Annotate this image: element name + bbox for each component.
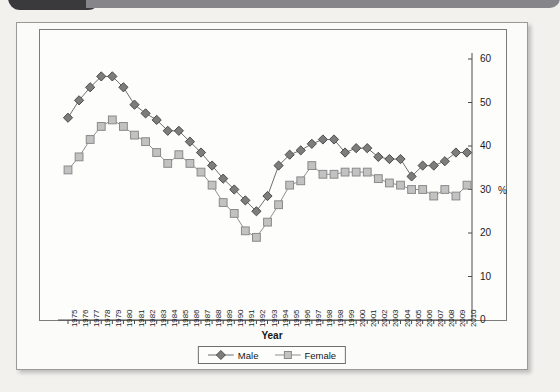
- x-tick-label: 1976: [82, 310, 90, 327]
- x-tick-label: 1998: [326, 310, 334, 327]
- x-tick-label: 1990: [237, 310, 245, 327]
- x-tick-label: 1975: [71, 310, 79, 327]
- x-tick-label: 2006: [426, 310, 434, 327]
- legend-diamond-icon: [208, 349, 234, 361]
- x-tick-label: 1995: [293, 310, 301, 327]
- x-tick-label: 1982: [149, 310, 157, 327]
- x-tick-label: 2001: [370, 310, 378, 327]
- x-tick-label: 1996: [304, 310, 312, 327]
- legend-item-male[interactable]: Male: [208, 349, 259, 361]
- x-tick-label: 1999: [348, 310, 356, 327]
- window-title-bar: [86, 0, 560, 8]
- chart-legend: Male Female: [198, 346, 346, 364]
- x-tick-label: 1977: [93, 310, 101, 327]
- figure-card: 0102030%405060 1975197619771978197919801…: [16, 22, 528, 370]
- x-tick-label: 1993: [271, 310, 279, 327]
- x-tick-label: 1994: [282, 310, 290, 327]
- x-tick-label: 1986: [193, 310, 201, 327]
- x-tick-label: 2000: [359, 310, 367, 327]
- x-tick-label: 2008: [448, 310, 456, 327]
- x-tick-label: 2002: [381, 310, 389, 327]
- legend-square-icon: [274, 349, 300, 361]
- x-tick-label: 1983: [160, 310, 168, 327]
- x-tick-label: 1992: [259, 310, 267, 327]
- x-tick-label: 1998: [337, 310, 345, 327]
- x-tick-label: 1984: [171, 310, 179, 327]
- x-axis-title: Year: [17, 330, 527, 341]
- legend-label-male: Male: [238, 350, 259, 361]
- x-tick-label: 1989: [226, 310, 234, 327]
- legend-label-female: Female: [304, 350, 336, 361]
- x-tick-label: 2007: [437, 310, 445, 327]
- x-tick-label: 1997: [315, 310, 323, 327]
- x-tick-label: 1991: [248, 310, 256, 327]
- x-axis-tick-labels: 1975197619771978197919801981198219831984…: [17, 23, 529, 371]
- x-tick-label: 1988: [215, 310, 223, 327]
- legend-item-female[interactable]: Female: [274, 349, 336, 361]
- x-tick-label: 1987: [204, 310, 212, 327]
- x-tick-label: 1980: [126, 310, 134, 327]
- x-tick-label: 1985: [182, 310, 190, 327]
- x-tick-label: 1981: [138, 310, 146, 327]
- screenshot-root: 0102030%405060 1975197619771978197919801…: [0, 0, 560, 392]
- x-tick-label: 1979: [115, 310, 123, 327]
- x-tick-label: 2003: [392, 310, 400, 327]
- x-tick-label: 2004: [404, 310, 412, 327]
- x-tick-label: 2009: [459, 310, 467, 327]
- x-tick-label: 1978: [104, 310, 112, 327]
- x-tick-label: 2005: [415, 310, 423, 327]
- x-tick-label: 2010: [470, 310, 478, 327]
